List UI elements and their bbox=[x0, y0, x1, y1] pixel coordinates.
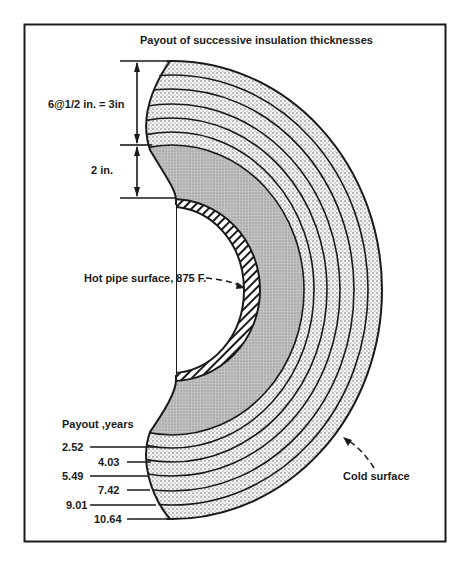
payout-labels: 2.52 4.03 5.49 7.42 9.01 10.64 bbox=[62, 441, 122, 525]
bore-open-side bbox=[100, 205, 176, 375]
figure-title: Payout of successive insulation thicknes… bbox=[140, 34, 373, 46]
layers-dimension-label: 6@1/2 in. = 3in bbox=[48, 98, 125, 110]
cold-surface-arrow-icon bbox=[343, 437, 352, 446]
pipe-cross-section bbox=[0, 61, 382, 519]
diagram-figure: Payout of successive insulation thicknes… bbox=[0, 0, 463, 567]
payout-value: 5.49 bbox=[62, 470, 83, 482]
cold-surface-leader bbox=[346, 439, 374, 468]
payout-value: 7.42 bbox=[98, 484, 119, 496]
payout-value: 2.52 bbox=[62, 441, 83, 453]
payout-value: 10.64 bbox=[94, 513, 122, 525]
hot-surface-label: Hot pipe surface, 875 F. bbox=[84, 272, 206, 284]
diagram-canvas: Payout of successive insulation thicknes… bbox=[0, 0, 463, 567]
payout-value: 9.01 bbox=[66, 499, 87, 511]
base-dimension-label: 2 in. bbox=[91, 164, 113, 176]
cold-surface-label: Cold surface bbox=[343, 470, 410, 482]
payout-value: 4.03 bbox=[98, 456, 119, 468]
payout-heading: Payout ,years bbox=[62, 418, 134, 430]
